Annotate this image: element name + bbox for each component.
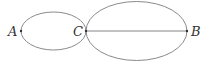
label-b: B [190,24,201,39]
point-b [186,30,188,32]
ellipse-diagram: A C B [0,0,210,65]
point-c [85,30,87,32]
label-a: A [7,24,17,39]
point-a [20,30,22,32]
label-c: C [73,24,83,39]
